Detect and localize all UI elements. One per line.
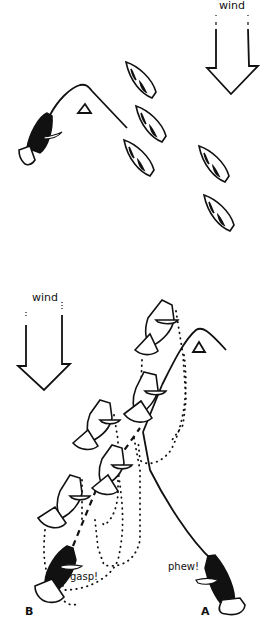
wind-arrow-icon — [18, 302, 70, 390]
boat-a-label: A — [201, 606, 210, 617]
mark-triangle-icon — [193, 342, 205, 352]
fleet-boat-icon — [199, 146, 229, 182]
black-boat-icon — [19, 113, 62, 165]
fleet-boat-icon — [136, 106, 166, 142]
wind-label: wind — [32, 292, 58, 303]
boat-a-exclaim: phew! — [168, 562, 199, 572]
fleet-boat-icon — [126, 62, 156, 98]
boat-b-exclaim: gasp! — [70, 572, 98, 582]
boat-b-label: B — [25, 606, 33, 617]
fleet-boat-icon — [124, 140, 154, 176]
sailing-diagram — [0, 0, 273, 624]
wind-label: wind — [219, 0, 245, 11]
mark-triangle-icon — [78, 104, 91, 113]
fleet-boat-icon — [204, 195, 234, 231]
wind-arrow-icon — [207, 15, 258, 94]
boat-a-course-line — [143, 329, 226, 560]
course-line — [50, 85, 127, 128]
